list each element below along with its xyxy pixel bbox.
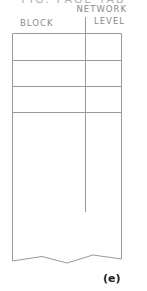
figure-label: (e) — [103, 272, 121, 285]
frame-outline — [13, 34, 122, 264]
block-diagram-frame — [0, 0, 147, 291]
